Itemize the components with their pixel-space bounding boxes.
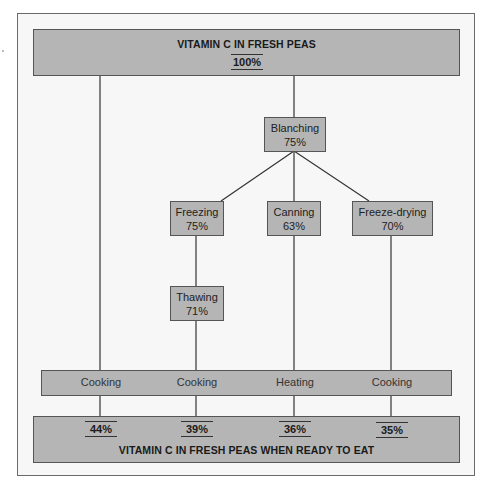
line-blanching-to-freezing <box>221 151 294 201</box>
bottom-box-title: VITAMIN C IN FRESH PEAS WHEN READY TO EA… <box>34 444 459 456</box>
final-steps-bar: Cooking Cooking Heating Cooking <box>41 370 452 396</box>
final-step-cooking-1: Cooking <box>61 376 141 388</box>
top-box-title: VITAMIN C IN FRESH PEAS <box>34 38 459 50</box>
line-blanching-to-freeze-drying <box>294 151 369 201</box>
node-value: 63% <box>268 219 320 233</box>
result-cooking-1: 44% <box>85 421 117 437</box>
node-thawing: Thawing 71% <box>170 286 224 321</box>
node-label: Blanching <box>265 121 325 135</box>
top-box: VITAMIN C IN FRESH PEAS 100% <box>33 29 460 76</box>
node-label: Canning <box>268 205 320 219</box>
final-step-cooking-4: Cooking <box>352 376 432 388</box>
result-cooking-4: 35% <box>376 422 408 438</box>
node-canning: Canning 63% <box>267 201 321 236</box>
node-value: 70% <box>353 219 432 233</box>
final-step-cooking-2: Cooking <box>157 376 237 388</box>
node-freezing: Freezing 75% <box>170 201 224 236</box>
node-label: Freeze-drying <box>353 205 432 219</box>
result-cooking-2: 39% <box>181 421 213 437</box>
node-freeze-drying: Freeze-drying 70% <box>352 201 433 236</box>
node-value: 75% <box>171 219 223 233</box>
node-label: Thawing <box>171 290 223 304</box>
node-label: Freezing <box>171 205 223 219</box>
node-value: 71% <box>171 304 223 318</box>
node-blanching: Blanching 75% <box>264 117 326 152</box>
final-step-heating: Heating <box>255 376 335 388</box>
bottom-box: 44% 39% 36% 35% VITAMIN C IN FRESH PEAS … <box>33 416 460 463</box>
top-box-value: 100% <box>231 54 263 70</box>
result-heating: 36% <box>279 421 311 437</box>
node-value: 75% <box>265 135 325 149</box>
